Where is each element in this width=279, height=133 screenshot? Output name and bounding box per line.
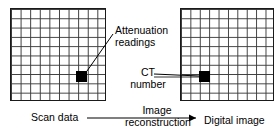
digital-image-caption: Digital image (204, 114, 265, 126)
scan-data-grid (10, 8, 106, 101)
attenuation-readings-line-2: readings (115, 36, 168, 48)
scan-data-caption: Scan data (31, 111, 78, 123)
image-reconstruction-line-2: reconstruction (125, 117, 189, 129)
diagram-canvas: Attenuation readings CT number Scan data… (0, 0, 279, 133)
attenuation-readings-line-1: Attenuation (115, 24, 168, 36)
digital-image-grid (180, 8, 274, 101)
ct-number-label: CT number (126, 66, 170, 90)
ct-number-line-2: number (126, 78, 170, 90)
ct-number-line-1: CT (126, 66, 170, 78)
digital-image-highlighted-cell (199, 71, 210, 82)
image-reconstruction-label: Image reconstruction (125, 105, 189, 128)
scan-data-highlighted-cell (76, 71, 87, 82)
attenuation-readings-label: Attenuation readings (115, 24, 168, 48)
image-reconstruction-line-1: Image (125, 105, 189, 117)
